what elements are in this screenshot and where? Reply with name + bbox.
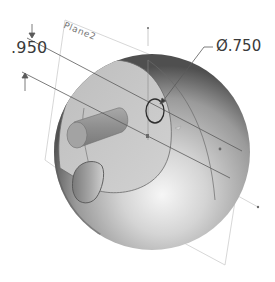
diameter-dimension-label[interactable]: Ø.750 [216, 37, 261, 55]
cad-viewport[interactable]: Plane2 .950 Ø.750 [0, 0, 275, 282]
linear-dimension-label[interactable]: .950 [11, 38, 47, 57]
